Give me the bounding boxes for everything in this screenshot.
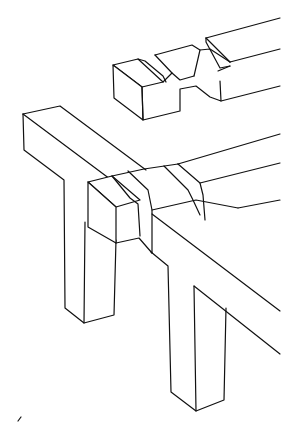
right-post [151,252,226,411]
long-beam [152,134,280,354]
left-post [23,106,146,323]
joint-block [88,164,238,253]
joint-drawing [0,0,296,422]
stray-mark [18,417,21,421]
top-beam [113,18,280,120]
drawing-canvas: Timber frame joint: notched beam above a… [0,0,296,422]
